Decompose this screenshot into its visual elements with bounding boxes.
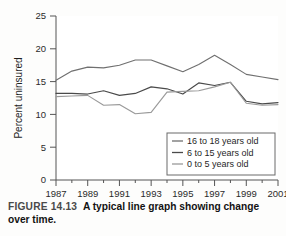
- x-tick-label: 1987: [45, 188, 66, 199]
- y-tick-label: 15: [35, 76, 46, 87]
- y-tick-label: 20: [35, 43, 46, 54]
- x-tick-label: 1999: [236, 188, 257, 199]
- x-axis-ticks: [56, 180, 278, 186]
- x-tick-label: 1993: [141, 188, 162, 199]
- y-tick-label: 5: [41, 142, 46, 153]
- y-axis-ticks: [50, 16, 56, 180]
- y-tick-label: 10: [35, 109, 46, 120]
- line-chart: 0510152025 19871989199119931995199719992…: [0, 0, 286, 200]
- legend-label: 6 to 15 years old: [187, 148, 254, 158]
- chart-legend: 16 to 18 years old6 to 15 years old0 to …: [167, 133, 275, 175]
- x-tick-label: 1989: [77, 188, 98, 199]
- x-tick-label: 2001: [267, 188, 286, 199]
- legend-label: 0 to 5 years old: [187, 159, 249, 169]
- x-tick-label: 1991: [109, 188, 130, 199]
- x-tick-label: 1997: [204, 188, 225, 199]
- y-tick-label: 25: [35, 10, 46, 21]
- x-axis-tick-labels: 19871989199119931995199719992001: [45, 188, 286, 199]
- y-tick-label: 0: [41, 174, 46, 185]
- chart-figure: 0510152025 19871989199119931995199719992…: [0, 0, 286, 200]
- figure-page: 0510152025 19871989199119931995199719992…: [0, 0, 286, 236]
- y-axis-title: Percent uninsured: [13, 57, 24, 138]
- legend-label: 16 to 18 years old: [187, 136, 259, 146]
- figure-number: FIGURE 14.13: [8, 201, 77, 212]
- figure-caption: FIGURE 14.13 A typical line graph showin…: [8, 200, 280, 227]
- y-axis-tick-labels: 0510152025: [35, 10, 46, 185]
- x-tick-label: 1995: [172, 188, 193, 199]
